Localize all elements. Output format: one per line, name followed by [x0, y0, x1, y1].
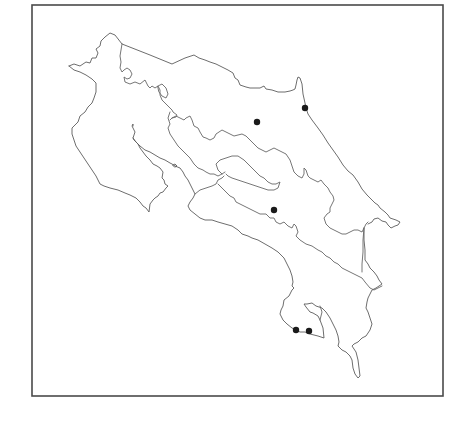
marker-site-3[interactable] [271, 207, 277, 213]
marker-site-4[interactable] [293, 327, 299, 333]
markers [254, 105, 312, 334]
marker-site-5[interactable] [306, 328, 312, 334]
province-boundaries [120, 44, 382, 320]
map-frame [32, 5, 443, 396]
map-canvas [0, 0, 476, 441]
marker-site-1[interactable] [254, 119, 260, 125]
marker-site-2[interactable] [302, 105, 308, 111]
country-outline [69, 33, 400, 378]
